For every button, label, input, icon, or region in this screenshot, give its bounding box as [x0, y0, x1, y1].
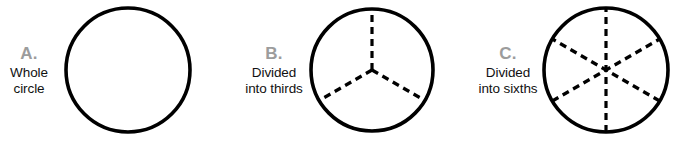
whole-circle-icon [64, 0, 200, 141]
panel-b-circle-wrap [310, 0, 442, 141]
panel-c-letter: C. [499, 44, 516, 64]
panel-c-label: C. Divided into sixths [478, 44, 538, 96]
circle-outline [66, 8, 190, 132]
division-dash-line-2 [372, 70, 425, 101]
circle-sixths-icon [542, 0, 676, 141]
panel-c: C. Divided into sixths [478, 0, 676, 141]
panel-c-caption: Divided into sixths [479, 65, 538, 96]
panel-b-label: B. Divided into thirds [242, 44, 306, 96]
panel-c-circle-wrap [542, 0, 676, 141]
panel-a-label: A. Whole circle [0, 44, 58, 96]
circle-thirds-icon [310, 0, 442, 141]
panel-a: A. Whole circle [0, 0, 200, 141]
panel-b-letter: B. [265, 44, 282, 64]
panel-b: B. Divided into thirds [242, 0, 442, 141]
panel-a-caption: Whole circle [10, 65, 48, 96]
fraction-circles-figure: A. Whole circle B. Divided into thirds C… [0, 0, 676, 141]
division-dash-line-1 [319, 70, 372, 101]
panel-b-caption: Divided into thirds [245, 65, 302, 96]
panel-a-circle-wrap [64, 0, 200, 141]
panel-a-letter: A. [20, 44, 37, 64]
